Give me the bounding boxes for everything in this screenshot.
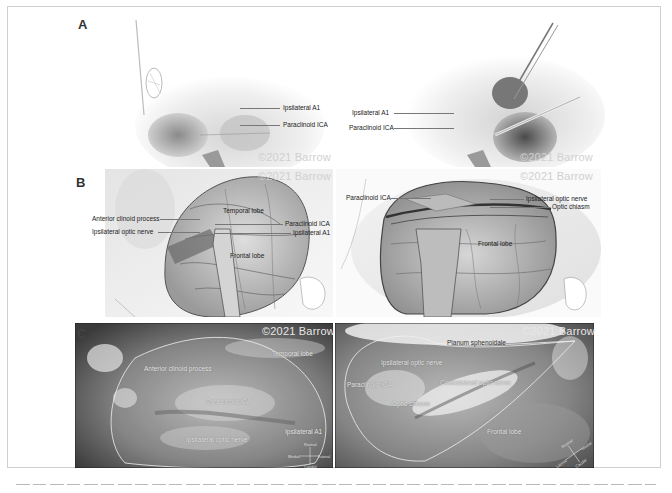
label-paraclinoid-ica: Paraclinoid ICA (285, 220, 330, 227)
label-temporal-lobe: Temporal lobe (272, 350, 313, 357)
label-paraclinoid-ica: Paraclinoid ICA (349, 124, 394, 131)
panel-b-left-illustration (105, 169, 333, 317)
craniotomy-brain-view-left (105, 169, 333, 317)
label-ipsilateral-optic-nerve: Ipsilateral optic nerve (526, 195, 587, 202)
panel-a-right-illustration (395, 15, 615, 167)
leader-line (490, 207, 550, 208)
label-ipsilateral-a1: Ipsilateral A1 (285, 428, 322, 435)
orientation-compass: Rostral Medial Lateral Caudal (290, 443, 330, 469)
label-ipsilateral-a1: Ipsilateral A1 (283, 104, 320, 111)
leader-line (160, 219, 200, 220)
leader-line (215, 224, 283, 225)
copyright-watermark: ©2021 Barrow (262, 325, 335, 337)
panel-a-letter: A (78, 17, 87, 32)
label-anterior-clinoid-process: Anterior clinoid process (92, 215, 160, 222)
figure-caption-truncated (16, 482, 656, 488)
compass-label-rostral: Rostral (304, 442, 317, 447)
label-ipsilateral-a1: Ipsilateral A1 (352, 109, 389, 116)
panel-c-letter: C (77, 326, 86, 341)
label-paraclinoid-ica: Paraclinoid ICA (283, 121, 328, 128)
copyright-watermark: ©2021 Barrow (522, 325, 595, 337)
skull-oblique-view-right (395, 15, 615, 167)
label-temporal-lobe: Temporal lobe (223, 207, 264, 214)
label-ipsilateral-optic-nerve: Ipsilateral optic nerve (186, 436, 247, 443)
panel-b-right-illustration (336, 169, 601, 317)
leader-line (394, 128, 454, 129)
label-frontal-lobe: Frontal lobe (478, 240, 512, 247)
skull-frontal-view-left (130, 15, 330, 167)
leader-line (391, 198, 431, 199)
caption-text-line (16, 484, 656, 485)
label-paraclinoid-ica: Paraclinoid ICA (206, 398, 251, 405)
label-optic-chiasm: Optic chiasm (392, 400, 430, 407)
label-ipsilateral-optic-nerve: Ipsilateral optic nerve (92, 228, 153, 235)
label-anterior-clinoid-process: Anterior clinoid process (144, 365, 212, 372)
label-ipsilateral-a1: Ipsilateral A1 (293, 229, 330, 236)
leader-line (240, 125, 280, 126)
label-planum-sphenoidale: Planum sphenoidale (447, 339, 506, 346)
label-optic-chiasm: Optic chiasm (552, 203, 590, 210)
copyright-watermark: ©2021 Barrow (258, 170, 331, 182)
compass-label-lateral: Lateral (318, 454, 330, 459)
label-frontal-lobe: Frontal lobe (230, 252, 264, 259)
label-ipsilateral-optic-nerve: Ipsilateral optic nerve (381, 359, 442, 366)
label-contralateral-optic-nerve: Contralateral optic nerve (440, 379, 511, 386)
craniotomy-brain-view-right (336, 169, 601, 317)
panel-b-letter: B (76, 175, 85, 190)
leader-line (240, 108, 280, 109)
label-frontal-lobe: Frontal lobe (487, 428, 521, 435)
leader-line (490, 199, 524, 200)
label-paraclinoid-ica: Paraclinoid ICA (346, 194, 391, 201)
leader-line (215, 233, 291, 234)
compass-label-caudal: Caudal (304, 464, 317, 469)
panel-a-left-illustration (130, 15, 330, 167)
leader-line (158, 232, 200, 233)
compass-label-medial: Medial (288, 454, 300, 459)
label-paraclinoid-ica: Paraclinoid ICA (347, 381, 392, 388)
copyright-watermark: ©2021 Barrow (520, 151, 593, 163)
leader-line (394, 113, 454, 114)
copyright-watermark: ©2021 Barrow (258, 151, 331, 163)
copyright-watermark: ©2021 Barrow (520, 170, 593, 182)
